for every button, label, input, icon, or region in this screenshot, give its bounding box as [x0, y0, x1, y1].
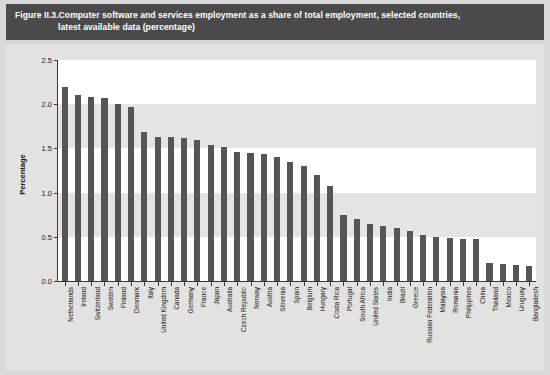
bar: [460, 239, 466, 281]
bar: [62, 87, 68, 281]
x-axis-tick-mark: [304, 282, 305, 286]
x-axis-tick-label: Belgium: [306, 287, 313, 310]
bar: [340, 215, 346, 281]
x-axis-tick-mark: [171, 282, 172, 286]
bar: [394, 228, 400, 281]
x-axis-tick-label: United States: [372, 287, 379, 326]
x-axis-tick-label: Canada: [173, 287, 180, 310]
x-axis-tick-mark: [529, 282, 530, 286]
bar: [221, 147, 227, 281]
x-axis-tick-label: Romania: [452, 287, 459, 313]
x-axis-tick-label: Australia: [226, 287, 233, 312]
x-axis-tick-mark: [144, 282, 145, 286]
bar: [75, 95, 81, 281]
x-axis-tick-label: Austria: [266, 287, 273, 307]
bar: [287, 162, 293, 281]
x-axis-line: [57, 281, 536, 282]
x-axis-tick-label: Brazil: [399, 287, 406, 303]
figure-number-label: Figure II.3.: [15, 9, 59, 21]
bar: [88, 97, 94, 281]
bar: [208, 145, 214, 281]
x-axis-tick-mark: [290, 282, 291, 286]
x-axis-tick-label: Costa Rica: [333, 287, 340, 318]
bar: [380, 226, 386, 281]
x-axis-tick-mark: [237, 282, 238, 286]
x-axis-tick-mark: [370, 282, 371, 286]
x-axis-tick-mark: [224, 282, 225, 286]
x-axis-tick-label: Japan: [213, 287, 220, 305]
x-axis-tick-mark: [450, 282, 451, 286]
bar: [367, 224, 373, 281]
bar: [168, 137, 174, 281]
bar: [526, 266, 532, 281]
y-axis-tick-mark: [54, 193, 58, 194]
bar: [128, 107, 134, 281]
y-axis-tick-label: 1.5: [24, 144, 52, 153]
y-axis-tick-mark: [54, 281, 58, 282]
bar: [301, 166, 307, 281]
x-axis-tick-label: Philippines: [465, 287, 472, 318]
x-axis-tick-mark: [184, 282, 185, 286]
x-axis-tick-label: Malaysia: [439, 287, 446, 312]
x-axis-tick-label: China: [479, 287, 486, 304]
x-axis-tick-label: Germany: [187, 287, 194, 313]
y-axis-tick-label: 2.5: [24, 56, 52, 65]
x-axis-tick-label: Denmark: [133, 287, 140, 313]
bar: [274, 157, 280, 281]
x-axis-tick-label: Norway: [253, 287, 260, 309]
x-axis-tick-label: Ireland: [80, 287, 87, 307]
x-axis-tick-mark: [197, 282, 198, 286]
x-axis-tick-label: Spain: [293, 287, 300, 303]
figure-title-line-2: latest available data (percentage): [58, 21, 536, 33]
x-axis-tick-mark: [463, 282, 464, 286]
y-axis-tick-mark: [54, 148, 58, 149]
x-axis-tick-mark: [118, 282, 119, 286]
x-axis-tick-label: France: [200, 287, 207, 307]
y-axis-tick-mark: [54, 237, 58, 238]
x-axis-tick-label: Czech Republic: [240, 287, 247, 332]
x-axis-tick-label: Netherlands: [67, 287, 74, 322]
bar-series: [58, 60, 536, 281]
x-axis-tick-label: Switzerland: [94, 287, 101, 320]
x-axis-tick-label: Italy: [147, 287, 154, 299]
x-axis-tick-mark: [211, 282, 212, 286]
bar: [486, 263, 492, 281]
x-axis-tick-label: South Africa: [359, 287, 366, 322]
bar: [247, 153, 253, 281]
x-axis-tick-mark: [436, 282, 437, 286]
x-axis-tick-label: Uruguay: [518, 287, 525, 311]
x-axis-tick-mark: [131, 282, 132, 286]
x-axis-tick-label: Hungary: [319, 287, 326, 311]
x-axis-tick-mark: [91, 282, 92, 286]
bar: [513, 265, 519, 281]
bar: [500, 264, 506, 281]
bar: [420, 235, 426, 281]
bar: [473, 239, 479, 281]
x-axis-tick-label: India: [386, 287, 393, 301]
x-axis-tick-label: Greece: [412, 287, 419, 308]
bar: [433, 237, 439, 281]
x-axis-tick-mark: [65, 282, 66, 286]
x-axis-tick-label: Thailand: [492, 287, 499, 312]
bar: [194, 140, 200, 281]
bar: [407, 231, 413, 281]
y-axis-ticks: 0.00.51.01.52.02.5: [24, 44, 52, 370]
figure-title-text-1: Computer software and services employmen…: [59, 10, 461, 20]
x-axis-tick-label: Slovenia: [279, 287, 286, 312]
x-axis-tick-mark: [476, 282, 477, 286]
x-axis-tick-mark: [383, 282, 384, 286]
x-axis-tick-label: Bangladesh: [532, 287, 539, 321]
bar: [115, 104, 121, 281]
bar: [155, 137, 161, 281]
x-axis-labels: NetherlandsIrelandSwitzerlandSwedenFinla…: [58, 287, 536, 367]
chart-panel: Percentage 0.00.51.01.52.02.5 Netherland…: [6, 44, 544, 370]
x-axis-tick-label: United Kingdom: [160, 287, 167, 333]
bar: [101, 98, 107, 281]
x-axis-tick-mark: [251, 282, 252, 286]
x-axis-tick-mark: [503, 282, 504, 286]
x-axis-tick-mark: [490, 282, 491, 286]
x-axis-tick-mark: [343, 282, 344, 286]
x-axis-tick-mark: [78, 282, 79, 286]
y-axis-tick-label: 2.0: [24, 100, 52, 109]
bar: [327, 186, 333, 281]
